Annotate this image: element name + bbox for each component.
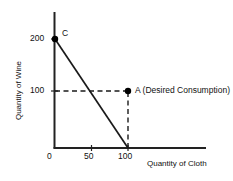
data-point-c-label: C xyxy=(62,29,68,38)
budget-constraint-chart: 200 100 0 50 100 C A (Desired Consumptio… xyxy=(0,0,233,181)
y-tick-label-100: 100 xyxy=(30,86,44,95)
data-point-c-marker xyxy=(52,36,58,42)
x-axis-title: Quantity of Cloth xyxy=(147,160,207,168)
x-tick-label-0: 0 xyxy=(47,152,52,161)
data-point-a-label: A (Desired Consumption) xyxy=(135,86,230,95)
y-axis-title: Quantity of Wine xyxy=(14,48,23,134)
x-tick-label-50: 50 xyxy=(84,152,93,161)
data-point-a-marker xyxy=(125,88,131,94)
x-tick-label-100: 100 xyxy=(118,152,132,161)
y-tick-label-200: 200 xyxy=(30,34,44,43)
budget-constraint-line xyxy=(55,39,128,148)
